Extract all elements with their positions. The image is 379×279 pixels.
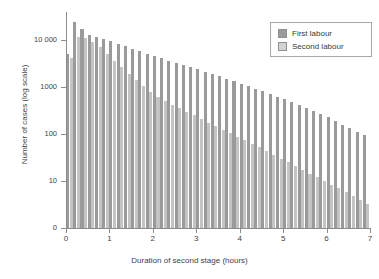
bar-first-labour (247, 86, 250, 228)
x-axis-title: Duration of second stage (hours) (0, 256, 379, 265)
legend-label: Second labour (292, 42, 344, 51)
bar-second-labour (366, 204, 369, 228)
bar-first-labour (225, 79, 228, 228)
bar-second-labour (265, 151, 268, 228)
bar-second-labour (352, 196, 355, 228)
legend-item-second-labour[interactable]: Second labour (278, 40, 371, 53)
x-tick-label: 2 (143, 234, 163, 243)
bar-first-labour (334, 121, 337, 228)
bar-second-labour (178, 108, 181, 228)
bar-second-labour (294, 166, 297, 228)
y-tick-label: 100 (44, 130, 57, 138)
bar-first-labour (131, 49, 134, 228)
bar-first-labour (189, 67, 192, 228)
y-tick-label: 0 (53, 224, 57, 232)
bar-second-labour (214, 126, 217, 228)
bar-second-labour (345, 192, 348, 228)
bar-second-labour (193, 115, 196, 228)
bar-second-labour (156, 97, 159, 228)
bar-second-labour (359, 200, 362, 228)
legend-swatch-icon (278, 29, 287, 38)
y-axis-line (66, 12, 67, 229)
bar-first-labour (153, 56, 156, 228)
x-tick-mark (327, 229, 328, 233)
y-tick-mark (61, 181, 66, 182)
bar-second-labour (280, 159, 283, 228)
x-tick-mark (109, 229, 110, 233)
x-tick-mark (66, 229, 67, 233)
bar-first-labour (232, 81, 235, 228)
bar-second-labour (135, 80, 138, 228)
bar-second-labour (171, 105, 174, 228)
y-tick-label: 10 000 (34, 36, 57, 44)
bar-first-labour (290, 102, 293, 228)
bar-first-labour (117, 44, 120, 228)
bar-second-labour (229, 133, 232, 228)
bar-second-labour (258, 147, 261, 228)
y-axis-title: Number of cases (log scale) (20, 45, 29, 185)
bar-second-labour (99, 47, 102, 228)
x-tick-mark (153, 229, 154, 233)
bar-first-labour (327, 117, 330, 228)
bar-second-labour (91, 42, 94, 228)
bar-second-labour (113, 61, 116, 228)
bar-first-labour (124, 46, 127, 228)
bar-first-labour (109, 41, 112, 228)
bar-second-labour (77, 37, 80, 228)
x-axis-line (66, 228, 371, 229)
bar-first-labour (240, 84, 243, 228)
bar-first-labour (298, 105, 301, 228)
bar-first-labour (356, 132, 359, 228)
bar-second-labour (200, 119, 203, 228)
bar-first-labour (341, 125, 344, 228)
bar-first-labour (138, 51, 141, 228)
bar-first-labour (363, 135, 366, 228)
bar-first-labour (160, 58, 163, 228)
bar-second-labour (287, 162, 290, 228)
legend-label: First labour (292, 29, 332, 38)
x-tick-label: 1 (99, 234, 119, 243)
bar-first-labour (88, 35, 91, 228)
bar-second-labour (207, 123, 210, 228)
bar-second-labour (330, 185, 333, 228)
bar-first-labour (196, 69, 199, 228)
bar-first-labour (204, 72, 207, 228)
bar-first-labour (102, 39, 105, 228)
x-tick-label: 3 (186, 234, 206, 243)
legend-item-first-labour[interactable]: First labour (278, 27, 371, 40)
bar-second-labour (323, 181, 326, 228)
bar-first-labour (80, 29, 83, 228)
bar-first-labour (146, 54, 149, 228)
bar-first-labour (261, 91, 264, 228)
bar-first-labour (269, 94, 272, 228)
bar-second-labour (272, 155, 275, 228)
bar-first-labour (95, 37, 98, 228)
bar-first-labour (348, 128, 351, 228)
x-tick-label: 5 (273, 234, 293, 243)
bar-first-labour (254, 89, 257, 228)
bar-first-labour (182, 65, 185, 228)
chart-figure: 010100100010 000 01234567 Duration of se… (0, 0, 379, 279)
bar-second-labour (316, 177, 319, 228)
y-tick-mark (61, 87, 66, 88)
chart-legend: First labour Second labour (270, 22, 372, 57)
bar-second-labour (251, 144, 254, 228)
x-tick-label: 0 (56, 234, 76, 243)
bar-second-labour (164, 101, 167, 228)
bar-first-labour (218, 76, 221, 228)
x-tick-mark (240, 229, 241, 233)
bar-first-labour (305, 108, 308, 228)
bar-first-labour (312, 111, 315, 228)
bar-first-labour (319, 114, 322, 228)
bar-second-labour (308, 174, 311, 229)
x-tick-mark (196, 229, 197, 233)
bar-second-labour (142, 86, 145, 228)
bar-second-labour (337, 188, 340, 228)
bar-first-labour (211, 74, 214, 228)
bar-second-labour (243, 140, 246, 228)
x-tick-mark (370, 229, 371, 233)
y-tick-mark (61, 40, 66, 41)
y-tick-label: 10 (49, 177, 57, 185)
y-tick-mark (61, 134, 66, 135)
bar-first-labour (167, 61, 170, 228)
